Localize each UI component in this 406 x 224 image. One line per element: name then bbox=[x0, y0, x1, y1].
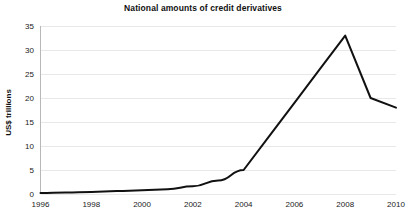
x-tick-label: 1998 bbox=[82, 200, 100, 209]
y-tick-label: 5 bbox=[30, 166, 35, 175]
y-tick-label: 30 bbox=[25, 46, 34, 55]
y-tick-label: 0 bbox=[30, 190, 35, 199]
y-tick-label: 10 bbox=[25, 142, 34, 151]
gridlines bbox=[41, 27, 397, 195]
x-tick-label: 2008 bbox=[336, 200, 354, 209]
x-tick-label: 2006 bbox=[286, 200, 304, 209]
y-tick-label: 15 bbox=[25, 118, 34, 127]
x-tick-label: 2000 bbox=[133, 200, 151, 209]
x-tick-label: 2002 bbox=[184, 200, 202, 209]
y-tick-label: 35 bbox=[25, 22, 34, 31]
plot-area: 05101520253035 1996199820002002200420062… bbox=[0, 0, 406, 224]
x-axis-ticks: 19961998200020022004200620082010 bbox=[32, 200, 406, 209]
x-tick-label: 2004 bbox=[235, 200, 253, 209]
data-series-line bbox=[41, 36, 397, 193]
x-tick-label: 2010 bbox=[387, 200, 405, 209]
y-tick-label: 20 bbox=[25, 94, 34, 103]
x-tick-label: 1996 bbox=[32, 200, 50, 209]
chart-container: National amounts of credit derivatives U… bbox=[0, 0, 406, 224]
y-axis-ticks: 05101520253035 bbox=[25, 22, 34, 199]
y-tick-label: 25 bbox=[25, 70, 34, 79]
